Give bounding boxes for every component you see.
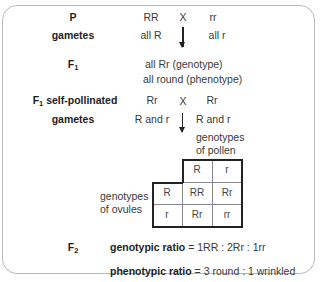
down-arrow-icon — [182, 27, 184, 47]
cross-symbol: X — [179, 11, 186, 24]
f2-label: F2 — [68, 241, 79, 254]
f1-cross-right: Rr — [206, 94, 217, 107]
gametes-label: gametes — [52, 113, 95, 126]
f1-cross-label: F1 self-pollinated — [33, 94, 118, 107]
f1-cross-left: Rr — [146, 94, 157, 107]
offspring-cell: RR — [182, 182, 212, 204]
gametes-label: gametes — [52, 29, 95, 42]
offspring-cell: Rr — [182, 204, 212, 226]
ovule-label-line1: genotypes — [100, 190, 148, 203]
pollen-label-line2: of pollen — [196, 144, 236, 157]
f1-phenotype: all round (phenotype) — [143, 73, 242, 86]
parent-left-genotype: RR — [143, 11, 158, 24]
f1-genotype: all Rr (genotype) — [145, 58, 223, 71]
ovule-label-line2: of ovules — [100, 203, 142, 216]
genotypic-ratio: genotypic ratio = 1RR : 2Rr : 1rr — [110, 241, 266, 254]
offspring-cell: Rr — [212, 182, 242, 204]
parent-right-gametes: all r — [209, 29, 226, 42]
phenotypic-ratio: phenotypic ratio = 3 round : 1 wrinkled — [110, 265, 295, 278]
diagram-frame — [2, 5, 315, 274]
f1-right-gametes: R and r — [196, 113, 230, 126]
down-arrow-icon — [182, 113, 184, 132]
punnett-square: R r R r RR Rr Rr rr — [152, 159, 242, 227]
parents-label: P — [69, 11, 76, 24]
parent-right-genotype: rr — [210, 11, 217, 24]
pollen-label-line1: genotypes — [196, 131, 244, 144]
f1-left-gametes: R and r — [135, 113, 169, 126]
parent-left-gametes: all R — [140, 29, 161, 42]
pollen-gamete: R — [182, 159, 212, 182]
pollen-gamete: r — [212, 159, 242, 182]
f1-label: F1 — [68, 58, 79, 71]
ovule-gamete: R — [152, 182, 182, 204]
ovule-gamete: r — [152, 204, 182, 226]
offspring-cell: rr — [212, 204, 242, 226]
cross-symbol: X — [179, 95, 186, 108]
